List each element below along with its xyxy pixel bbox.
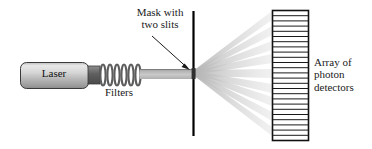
detector-array-frame bbox=[273, 11, 309, 141]
coil-loop bbox=[135, 65, 140, 86]
diffracted-light-fan bbox=[193, 11, 272, 136]
laser-label: Laser bbox=[20, 67, 88, 79]
slit-aperture bbox=[192, 68, 196, 79]
coil-loop bbox=[100, 65, 105, 86]
coil-loop bbox=[121, 65, 126, 86]
coil-loop bbox=[128, 65, 133, 86]
mask-label: Mask with two slits bbox=[128, 6, 192, 31]
laser-beam bbox=[140, 69, 193, 79]
filters-label: Filters bbox=[94, 86, 144, 98]
filters-coil bbox=[100, 65, 140, 86]
coil-loop bbox=[107, 65, 112, 86]
mask-pointer-arrow bbox=[152, 36, 190, 70]
coil-loop bbox=[114, 65, 119, 86]
mask-with-two-slits bbox=[192, 11, 196, 136]
laser-nozzle bbox=[88, 66, 100, 84]
detector-array-label: Array of photon detectors bbox=[314, 56, 372, 93]
double-slit-experiment-figure: Mask with two slits Laser Filters Array … bbox=[0, 0, 372, 149]
photon-detector-array bbox=[273, 11, 309, 141]
